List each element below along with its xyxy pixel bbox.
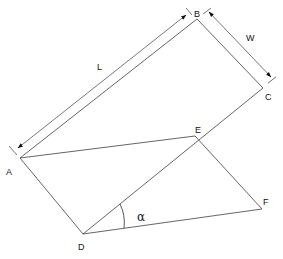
angle-arc-alpha [120,204,124,228]
point-label-a: A [6,167,12,177]
dimension-line-w [209,12,271,77]
point-label-f: F [263,197,269,207]
point-label-c: C [265,92,272,102]
point-label-b: B [194,9,200,19]
geometry-diagram: A B C D E F L W α [0,0,283,259]
edge-bc [197,19,263,88]
edge-ae [20,136,195,158]
dimension-l-tick-a [9,146,17,155]
dimension-label-l: L [97,62,102,72]
point-label-d: D [78,242,85,252]
diagram-svg: A B C D E F L W α [0,0,283,259]
edge-ab [20,19,197,158]
point-label-e: E [195,125,201,135]
angle-label-alpha: α [137,210,145,224]
dimension-label-w: W [246,33,255,43]
dimension-w-tick-c [268,77,276,83]
edge-ef [195,136,262,209]
edge-cd [83,88,263,234]
dimension-line-l [18,15,186,148]
dimension-l-tick-b [186,8,192,15]
edge-ad [20,158,83,234]
